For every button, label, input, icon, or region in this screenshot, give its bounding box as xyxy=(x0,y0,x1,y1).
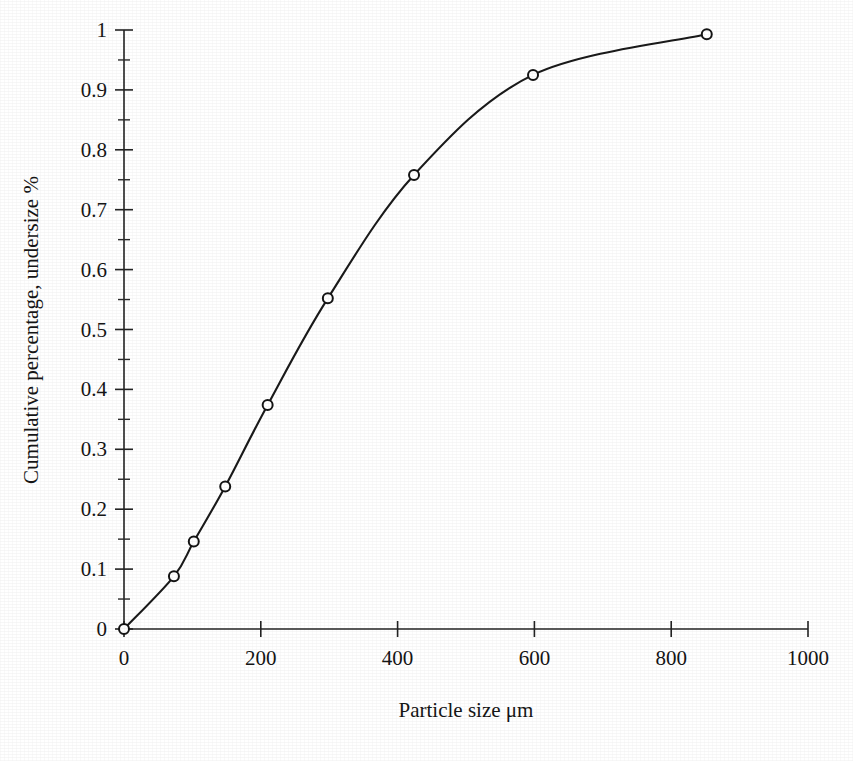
particle-size-distribution-chart: 00.10.20.30.40.50.60.70.80.91 0200400600… xyxy=(0,0,853,761)
y-tick-label: 0.6 xyxy=(81,258,107,282)
y-tick-label: 1 xyxy=(97,18,108,42)
x-tick-label: 800 xyxy=(655,646,687,670)
data-point-marker xyxy=(169,571,179,581)
y-tick-label: 0.8 xyxy=(81,138,107,162)
y-tick-label: 0.4 xyxy=(81,377,108,401)
data-point-marker xyxy=(702,29,712,39)
x-tick-label: 400 xyxy=(382,646,414,670)
y-tick-label: 0.9 xyxy=(81,78,107,102)
data-point-marker xyxy=(189,537,199,547)
x-axis-title: Particle size μm xyxy=(399,698,534,722)
y-tick-label: 0.2 xyxy=(81,497,107,521)
y-axis-title: Cumulative percentage, undersize % xyxy=(19,176,43,484)
data-point-marker xyxy=(220,481,230,491)
x-tick-label: 600 xyxy=(519,646,551,670)
data-point-marker xyxy=(528,70,538,80)
data-point-marker xyxy=(409,170,419,180)
data-point-marker xyxy=(323,293,333,303)
y-tick-label: 0.7 xyxy=(81,198,107,222)
data-point-marker xyxy=(263,400,273,410)
data-point-marker xyxy=(119,624,129,634)
y-tick-label: 0.1 xyxy=(81,557,107,581)
x-tick-label: 1000 xyxy=(787,646,829,670)
y-tick-label: 0.5 xyxy=(81,318,107,342)
y-tick-label: 0.3 xyxy=(81,437,107,461)
y-tick-label: 0 xyxy=(97,617,108,641)
x-tick-label: 0 xyxy=(119,646,130,670)
x-tick-label: 200 xyxy=(245,646,277,670)
chart-canvas: 00.10.20.30.40.50.60.70.80.91 0200400600… xyxy=(0,0,853,761)
